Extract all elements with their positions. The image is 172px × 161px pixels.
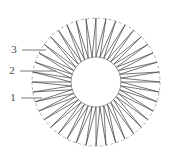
callout-3-label: 3 [11,43,17,55]
figure-container: 321 [0,0,172,161]
annular-wedge-diagram: 321 [0,0,172,161]
wedge-slant [96,107,100,146]
callout-2-label: 2 [9,64,15,76]
wedge-slant [118,62,157,70]
wedge-slant [76,21,84,60]
wedge-slant [32,82,71,86]
callout-1-label: 1 [10,91,16,103]
inner-circle [71,57,121,107]
wedge-slant [107,104,115,143]
wedge-slant [121,78,160,82]
wedge-slant [92,18,96,57]
wedge-group [32,18,160,146]
